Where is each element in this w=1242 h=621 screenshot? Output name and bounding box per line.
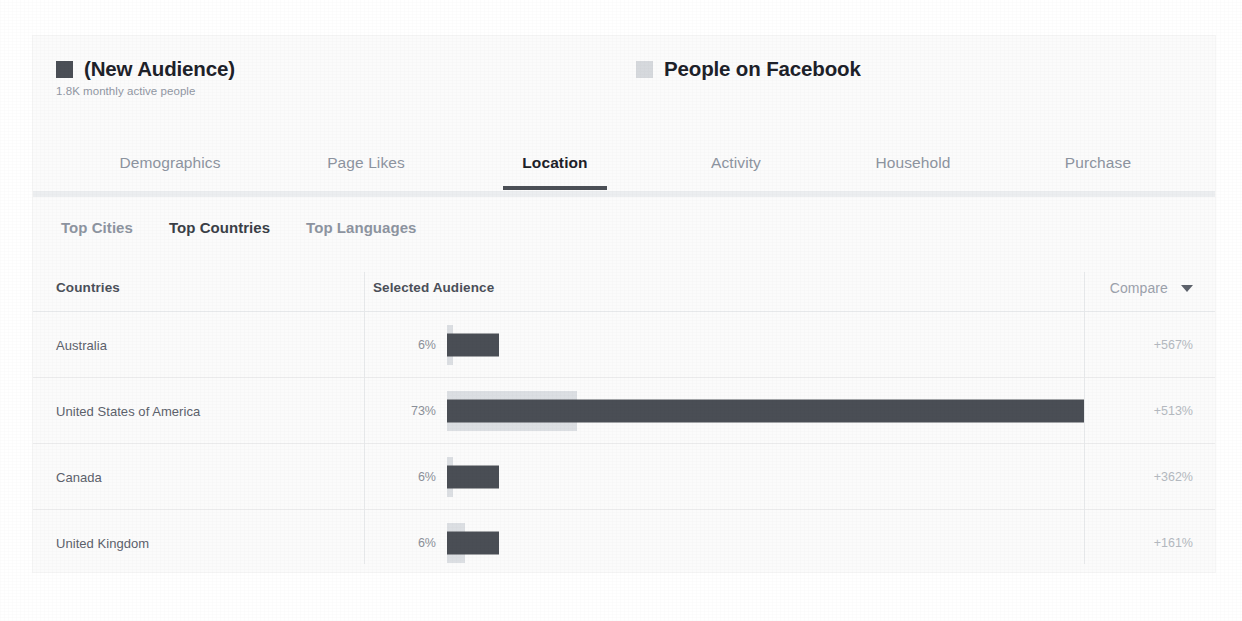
legend-people-on-facebook: People on Facebook [636, 57, 861, 81]
row-percent-value: 73% [388, 404, 436, 418]
row-bar-group [447, 312, 1087, 377]
legend-comparison-label: People on Facebook [664, 57, 861, 81]
sub-tab-bar: Top Cities Top Countries Top Languages [61, 219, 452, 236]
column-header-compare-label: Compare [1110, 280, 1168, 296]
bar-selected-audience [447, 399, 1085, 422]
column-header-compare[interactable]: Compare [1110, 280, 1193, 296]
row-country-label: United Kingdom [56, 535, 149, 550]
table-row[interactable]: United Kingdom 6% +161% [33, 510, 1215, 575]
row-country-label: United States of America [56, 403, 200, 418]
table-header-row: Countries Selected Audience Compare [33, 264, 1215, 312]
legend-swatch-selected-icon [56, 61, 73, 78]
row-country-label: Australia [56, 337, 107, 352]
tab-purchase-label: Purchase [1065, 154, 1131, 171]
legend-selected-subtitle: 1.8K monthly active people [56, 85, 195, 97]
column-header-selected-audience: Selected Audience [373, 280, 494, 295]
legend-swatch-comparison-icon [636, 61, 653, 78]
legend-selected-audience: (New Audience) [56, 57, 235, 81]
column-divider-left [364, 272, 365, 564]
subtab-top-cities[interactable]: Top Cities [61, 219, 133, 236]
row-bar-group [447, 444, 1087, 509]
table-row[interactable]: Canada 6% +362% [33, 444, 1215, 510]
row-country-label: Canada [56, 469, 102, 484]
active-tab-underline [503, 186, 607, 190]
tab-purchase[interactable]: Purchase [1018, 142, 1178, 184]
table-row[interactable]: United States of America 73% +513% [33, 378, 1215, 444]
row-compare-value: +567% [1154, 338, 1193, 352]
main-tab-bar: Demographics Page Likes Location Activit… [33, 142, 1215, 184]
bar-selected-audience [447, 465, 499, 488]
column-header-countries: Countries [56, 280, 120, 295]
row-bar-group [447, 510, 1087, 575]
tab-household-label: Household [875, 154, 950, 171]
row-percent-value: 6% [388, 536, 436, 550]
row-bar-group [447, 378, 1087, 443]
tab-household[interactable]: Household [828, 142, 998, 184]
tab-demographics-label: Demographics [119, 154, 220, 171]
tab-demographics[interactable]: Demographics [75, 142, 265, 184]
audience-insights-card: (New Audience) 1.8K monthly active peopl… [33, 36, 1215, 572]
row-compare-value: +362% [1154, 470, 1193, 484]
tab-bar-divider [33, 191, 1215, 197]
tab-location[interactable]: Location [470, 142, 640, 184]
bar-selected-audience [447, 531, 499, 554]
tab-page-likes[interactable]: Page Likes [281, 142, 451, 184]
row-compare-value: +161% [1154, 536, 1193, 550]
tab-page-likes-label: Page Likes [327, 154, 405, 171]
row-compare-value: +513% [1154, 404, 1193, 418]
top-countries-table: Countries Selected Audience Compare Aust… [33, 264, 1215, 575]
row-percent-value: 6% [388, 470, 436, 484]
tab-activity[interactable]: Activity [661, 142, 811, 184]
column-divider-right [1084, 272, 1085, 564]
chevron-down-icon [1181, 285, 1193, 292]
subtab-top-countries[interactable]: Top Countries [169, 219, 270, 236]
bar-selected-audience [447, 333, 499, 356]
table-row[interactable]: Australia 6% +567% [33, 312, 1215, 378]
subtab-top-languages[interactable]: Top Languages [306, 219, 416, 236]
legend-row: (New Audience) 1.8K monthly active peopl… [33, 36, 1215, 120]
tab-location-label: Location [522, 154, 587, 171]
row-percent-value: 6% [388, 338, 436, 352]
legend-selected-label: (New Audience) [84, 57, 235, 81]
tab-activity-label: Activity [711, 154, 761, 171]
